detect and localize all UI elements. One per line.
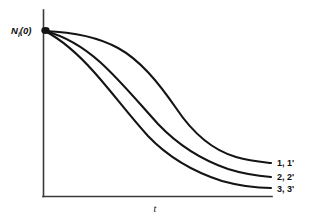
- common-origin-point: [41, 27, 49, 34]
- y-axis-label-suffix: (0): [20, 25, 32, 36]
- decay-curves-chart: Ni(0) t 1, 1' 2, 2' 3, 3': [0, 0, 311, 219]
- x-axis-label: t: [154, 203, 157, 214]
- curve-label-series-1: 1, 1': [277, 158, 294, 168]
- y-axis-label: Ni(0): [11, 25, 31, 38]
- curve-label-series-2: 2, 2': [277, 172, 294, 182]
- curve-label-series-3: 3, 3': [277, 184, 294, 194]
